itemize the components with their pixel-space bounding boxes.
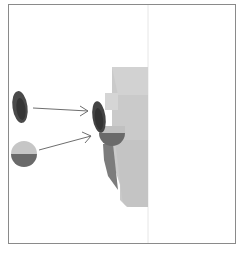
arrow-half-circle <box>39 132 91 150</box>
diagram-canvas <box>0 0 243 255</box>
arrow-capsule <box>33 106 88 116</box>
half-circle-callout-icon <box>11 141 37 167</box>
capsule-callout-icon <box>10 90 29 124</box>
